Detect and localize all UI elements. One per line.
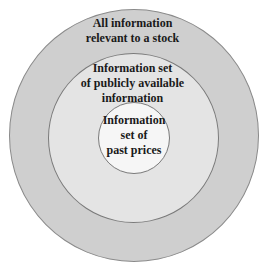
outer-circle-label: All information relevant to a stock <box>0 16 265 46</box>
outer-label-line-1: All information <box>0 16 265 31</box>
inner-label-line-3: past prices <box>98 143 170 158</box>
inner-circle-label: Information set of past prices <box>98 113 170 158</box>
inner-label-line-1: Information <box>98 113 170 128</box>
middle-label-line-3: information <box>0 91 265 106</box>
middle-label-line-2: of publicly available <box>0 76 265 91</box>
middle-label-line-1: Information set <box>0 61 265 76</box>
middle-circle-label: Information set of publicly available in… <box>0 61 265 106</box>
outer-label-line-2: relevant to a stock <box>0 31 265 46</box>
inner-label-line-2: set of <box>98 128 170 143</box>
